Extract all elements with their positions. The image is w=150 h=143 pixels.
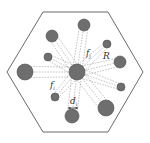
satellite-node <box>51 93 59 101</box>
satellite-node <box>44 53 52 61</box>
label-fj: fj <box>85 48 91 60</box>
satellite-node <box>17 64 33 80</box>
satellite-node <box>65 109 79 123</box>
satellite-node <box>117 83 125 91</box>
satellite-node <box>46 30 58 42</box>
satellite-node <box>114 56 126 68</box>
satellite-node <box>103 40 111 48</box>
label-fi: fi <box>49 80 55 91</box>
satellite-node <box>98 100 114 116</box>
satellite-node <box>78 19 90 31</box>
label-di: di <box>70 96 78 107</box>
hexagon-cell-diagram: fj R fi di <box>0 0 150 143</box>
dashed-link <box>25 66 77 67</box>
center-node <box>69 64 85 80</box>
dashed-link <box>73 75 101 112</box>
label-R: R <box>102 51 110 61</box>
dashed-link <box>25 77 77 78</box>
